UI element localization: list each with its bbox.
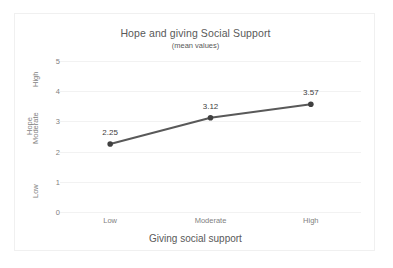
y-axis-tick-label: 5 <box>34 57 60 66</box>
y-axis-tick-label: 1 <box>34 177 60 186</box>
y-axis-tick-labels: 012345 <box>29 61 60 212</box>
data-point-label: 3.12 <box>203 102 219 111</box>
chart-subtitle: (mean values) <box>15 41 376 50</box>
x-axis-title: Giving social support <box>15 233 376 244</box>
chart-title: Hope and giving Social Support <box>15 27 376 39</box>
chart-frame: Hope and giving Social Support (mean val… <box>14 13 375 251</box>
x-axis-tick-label: Moderate <box>195 216 227 225</box>
x-axis-tick-labels: LowModerateHigh <box>60 216 361 228</box>
data-point-marker <box>208 115 214 121</box>
x-axis-tick-label: High <box>303 216 318 225</box>
data-point-marker <box>308 101 314 107</box>
data-point-label: 3.57 <box>303 88 319 97</box>
y-axis-tick-label: 0 <box>34 208 60 217</box>
y-axis-tick-label: 2 <box>34 147 60 156</box>
y-axis-tick-label: 3 <box>34 117 60 126</box>
x-axis-tick-label: Low <box>103 216 117 225</box>
gridline <box>60 212 361 213</box>
y-axis-tick-label: 4 <box>34 87 60 96</box>
plot-area: 2.253.123.57 <box>60 61 361 212</box>
data-point-label: 2.25 <box>102 128 118 137</box>
data-point-marker <box>107 141 113 147</box>
